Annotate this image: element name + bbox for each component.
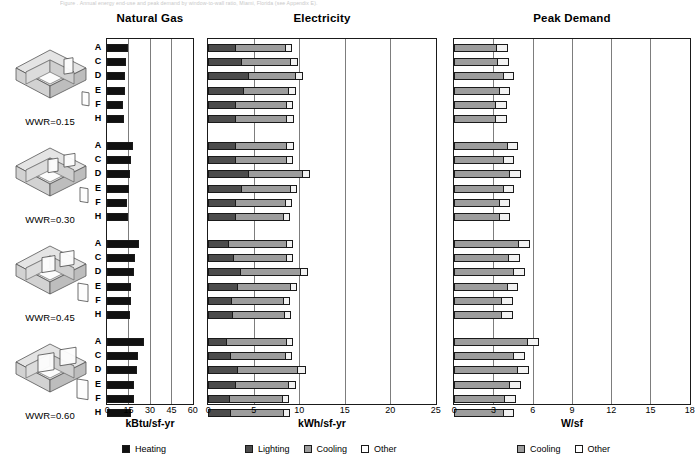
row-label-f: F <box>92 100 104 109</box>
bar-peak-WWR-0.15-C <box>454 58 509 66</box>
bar-segment-heating <box>107 101 123 109</box>
bar-segment-cooling <box>235 44 284 52</box>
bar-segment-cooling <box>248 170 302 178</box>
bar-segment-other <box>508 254 520 262</box>
bar-segment-lighting <box>208 44 235 52</box>
bar-segment-cooling <box>454 142 506 150</box>
bar-gas-WWR-0.45-D <box>107 268 134 276</box>
legend-item-other: Other <box>361 444 397 454</box>
bar-segment-lighting <box>208 254 233 262</box>
axis-label-peak: W/sf <box>453 417 691 429</box>
axis-tick-peak-15: 15 <box>641 405 661 415</box>
bar-segment-cooling <box>235 115 286 123</box>
bar-segment-heating <box>107 72 125 80</box>
bar-segment-lighting <box>208 199 234 207</box>
axis-tick-peak-9: 9 <box>562 405 582 415</box>
bar-segment-other <box>499 87 511 95</box>
bar-gas-WWR-0.15-E <box>107 87 125 95</box>
bar-peak-WWR-0.45-A <box>454 240 530 248</box>
bar-gas-WWR-0.30-D <box>107 170 130 178</box>
bar-segment-lighting <box>208 311 232 319</box>
bar-segment-lighting <box>208 213 234 221</box>
bar-segment-lighting <box>208 352 230 360</box>
bar-segment-lighting <box>208 268 240 276</box>
axis-label-gas: kBtu/sf-yr <box>106 417 194 429</box>
legend-gas: Heating <box>122 444 180 454</box>
bar-elec-WWR-0.60-A <box>208 338 293 346</box>
bar-segment-other <box>495 101 507 109</box>
row-label-h: H <box>92 114 104 123</box>
bar-elec-WWR-0.45-H <box>208 311 291 319</box>
bar-segment-other <box>286 142 293 150</box>
gridline <box>611 39 612 404</box>
bar-segment-other <box>501 297 513 305</box>
legend-swatch-cooling <box>517 445 525 453</box>
bar-segment-other <box>497 58 509 66</box>
bar-gas-WWR-0.30-F <box>107 199 127 207</box>
bar-segment-cooling <box>454 44 496 52</box>
legend-item-other: Other <box>575 444 611 454</box>
bar-gas-WWR-0.15-D <box>107 72 125 80</box>
wwr-label: WWR=0.15 <box>4 116 96 127</box>
bar-segment-lighting <box>208 72 248 80</box>
bar-peak-WWR-0.30-A <box>454 142 518 150</box>
bar-segment-cooling <box>454 311 501 319</box>
axis-tick-elec-20: 20 <box>380 405 400 415</box>
bar-segment-other <box>513 352 525 360</box>
bar-segment-other <box>496 44 508 52</box>
bar-segment-other <box>290 185 297 193</box>
axis-tick-gas-30: 30 <box>140 405 160 415</box>
gridline <box>128 39 129 404</box>
bar-segment-other <box>290 283 297 291</box>
bar-segment-cooling <box>235 199 285 207</box>
bar-segment-cooling <box>235 101 286 109</box>
bar-segment-heating <box>107 115 124 123</box>
bar-elec-WWR-0.15-E <box>208 87 295 95</box>
bar-gas-WWR-0.30-A <box>107 142 133 150</box>
bar-elec-WWR-0.45-E <box>208 283 297 291</box>
bar-segment-other <box>527 338 539 346</box>
bar-segment-heating <box>107 58 126 66</box>
bar-segment-other <box>286 101 292 109</box>
bar-segment-cooling <box>454 170 509 178</box>
bar-segment-other <box>297 366 305 374</box>
bar-gas-WWR-0.45-C <box>107 254 135 262</box>
bar-elec-WWR-0.30-D <box>208 170 310 178</box>
axis-tick-gas-15: 15 <box>119 405 139 415</box>
bar-peak-WWR-0.45-E <box>454 283 518 291</box>
bar-segment-cooling <box>454 254 508 262</box>
bar-gas-WWR-0.30-H <box>107 213 128 221</box>
bar-segment-lighting <box>208 142 234 150</box>
bar-segment-other <box>285 44 292 52</box>
bar-peak-WWR-0.60-E <box>454 381 521 389</box>
axis-tick-gas-45: 45 <box>161 405 181 415</box>
bar-segment-other <box>283 297 290 305</box>
wwr-label: WWR=0.45 <box>4 312 96 323</box>
row-label-a: A <box>92 43 104 52</box>
bar-peak-WWR-0.30-F <box>454 199 510 207</box>
bar-segment-other <box>503 156 515 164</box>
axis-tick-peak-6: 6 <box>523 405 543 415</box>
bar-elec-WWR-0.60-D <box>208 366 305 374</box>
bar-segment-cooling <box>235 142 287 150</box>
row-label-f: F <box>92 296 104 305</box>
bar-gas-WWR-0.15-C <box>107 58 126 66</box>
row-label-e: E <box>92 380 104 389</box>
bar-gas-WWR-0.15-H <box>107 115 124 123</box>
bar-segment-other <box>300 268 308 276</box>
bar-gas-WWR-0.15-A <box>107 44 128 52</box>
axis-tick-elec-10: 10 <box>289 405 309 415</box>
bar-segment-heating <box>107 254 135 262</box>
bar-peak-WWR-0.15-D <box>454 72 514 80</box>
gridline <box>345 39 346 404</box>
legend-swatch-heating <box>122 445 130 453</box>
bar-segment-cooling <box>235 381 289 389</box>
legend-swatch-other <box>361 445 369 453</box>
legend-label: Cooling <box>530 444 561 454</box>
gridline <box>390 39 391 404</box>
bar-segment-heating <box>107 44 128 52</box>
panel-title-natural-gas: Natural Gas <box>106 12 194 24</box>
row-label-e: E <box>92 282 104 291</box>
bar-segment-other <box>283 213 290 221</box>
panel-title-peak-demand: Peak Demand <box>453 12 691 24</box>
